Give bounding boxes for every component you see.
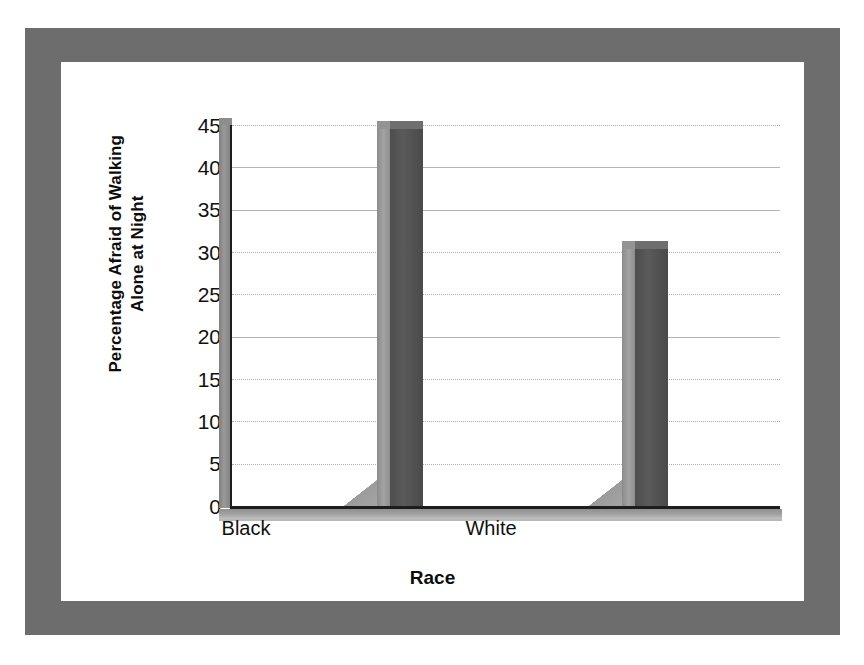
gridline-10 bbox=[232, 421, 780, 422]
y-tick-25: 25 bbox=[175, 284, 221, 305]
y-axis-line bbox=[230, 125, 232, 508]
x-tick-white: White bbox=[411, 517, 571, 540]
x-axis-title: Race bbox=[61, 567, 804, 589]
y-axis-title: Percentage Afraid of Walking Alone at Ni… bbox=[105, 74, 149, 434]
chart-card: Percentage Afraid of Walking Alone at Ni… bbox=[61, 62, 804, 601]
y-tick-35: 35 bbox=[175, 199, 221, 220]
y-tick-15: 15 bbox=[175, 369, 221, 390]
bar-white-front-face bbox=[635, 249, 668, 506]
gridline-15 bbox=[232, 379, 780, 380]
gridline-5 bbox=[232, 464, 780, 465]
gridline-45 bbox=[232, 125, 780, 126]
y-tick-0: 0 bbox=[175, 496, 221, 517]
gridline-35 bbox=[232, 210, 780, 211]
y-tick-45: 45 bbox=[175, 115, 221, 136]
y-axis-tick-labels: 45 40 35 30 25 20 15 10 5 0 bbox=[169, 125, 221, 506]
chart-border-frame: Percentage Afraid of Walking Alone at Ni… bbox=[25, 28, 840, 635]
y-axis-title-line1: Percentage Afraid of Walking bbox=[105, 74, 127, 434]
y-tick-5: 5 bbox=[175, 453, 221, 474]
y-axis-title-line2: Alone at Night bbox=[127, 74, 149, 434]
bar-black-top-face bbox=[377, 121, 423, 129]
bar-black-front-face bbox=[390, 129, 423, 506]
y-tick-20: 20 bbox=[175, 326, 221, 347]
gridline-25 bbox=[232, 294, 780, 295]
x-tick-black: Black bbox=[166, 517, 326, 540]
bar-white-side-face bbox=[622, 249, 635, 506]
bar-white-top-face bbox=[622, 241, 668, 249]
bar-black-side-face bbox=[377, 129, 390, 506]
x-axis-line bbox=[230, 506, 780, 509]
y-tick-10: 10 bbox=[175, 411, 221, 432]
y-tick-30: 30 bbox=[175, 242, 221, 263]
y-axis-depth-cap bbox=[219, 118, 232, 125]
y-tick-40: 40 bbox=[175, 157, 221, 178]
gridline-20 bbox=[232, 337, 780, 338]
screenshot-root: Percentage Afraid of Walking Alone at Ni… bbox=[0, 0, 864, 665]
y-axis-depth-wall bbox=[219, 119, 230, 508]
gridline-30 bbox=[232, 252, 780, 253]
gridline-40 bbox=[232, 167, 780, 168]
plot-area bbox=[232, 125, 780, 506]
